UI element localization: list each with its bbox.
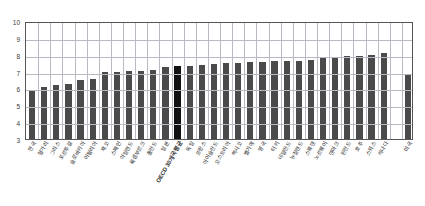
bar — [344, 56, 350, 139]
x-gridline — [62, 23, 63, 139]
x-gridline — [159, 23, 160, 139]
y-axis-tick-label: 3 — [4, 137, 20, 144]
x-gridline — [305, 23, 306, 139]
x-gridline — [269, 23, 270, 139]
bar — [53, 85, 59, 139]
bar — [102, 72, 108, 139]
x-axis-labels: 한국헝가리그리스포르투갈슬로바키아이탈리아체코스페인아일랜드룩셈부르크폴란드일본… — [25, 141, 413, 206]
x-axis-tick-label: 호주 — [355, 141, 365, 152]
x-gridline — [378, 23, 379, 139]
bar — [296, 61, 302, 139]
x-gridline — [232, 23, 233, 139]
bar — [138, 71, 144, 139]
bar — [114, 72, 120, 139]
x-axis-tick-label: 미국 — [404, 141, 414, 152]
y-axis-tick-label: 6 — [4, 86, 20, 93]
x-gridline — [184, 23, 185, 139]
bar — [187, 66, 193, 139]
bar — [368, 55, 374, 139]
x-axis-tick-label: 캐나다 — [377, 141, 389, 157]
x-axis-tick-label: 스위스 — [365, 141, 377, 157]
x-gridline — [196, 23, 197, 139]
x-axis-tick-label: 핀란드 — [341, 141, 353, 157]
bar — [29, 90, 35, 139]
bar — [90, 79, 96, 139]
y-axis-tick-label: 7 — [4, 69, 20, 76]
x-axis-tick-label: 체코 — [101, 141, 111, 152]
x-axis-tick-label: 헝가리 — [38, 141, 50, 157]
bar — [126, 71, 132, 139]
bar — [41, 87, 47, 139]
bar — [65, 84, 71, 139]
x-axis-tick-label: 한국 — [28, 141, 38, 152]
x-axis-tick-label: 멕시코 — [232, 141, 244, 157]
bar — [356, 56, 362, 139]
y-axis-tick-label: 9 — [4, 36, 20, 43]
x-gridline — [353, 23, 354, 139]
x-gridline — [244, 23, 245, 139]
bar — [150, 70, 156, 139]
x-gridline — [341, 23, 342, 139]
x-gridline — [256, 23, 257, 139]
x-axis-tick-label: 덴마크 — [329, 141, 341, 157]
y-axis-tick-label: 10 — [4, 19, 20, 26]
y-axis-tick-label: 5 — [4, 103, 20, 110]
x-gridline — [317, 23, 318, 139]
bar — [381, 53, 387, 139]
y-axis-tick-label: 8 — [4, 52, 20, 59]
bar — [332, 57, 338, 139]
x-gridline — [38, 23, 39, 139]
y-axis-tick-label: 4 — [4, 120, 20, 127]
x-axis-tick-label: 영국 — [258, 141, 268, 152]
x-gridline — [87, 23, 88, 139]
x-gridline — [135, 23, 136, 139]
x-gridline — [281, 23, 282, 139]
x-gridline — [147, 23, 148, 139]
x-axis-tick-label: 일본 — [161, 141, 171, 152]
x-axis-tick-label: 벨기에 — [244, 141, 256, 157]
x-gridline — [390, 23, 391, 139]
x-gridline — [99, 23, 100, 139]
x-axis-tick-label: 폴란드 — [147, 141, 159, 157]
x-gridline — [75, 23, 76, 139]
x-gridline — [111, 23, 112, 139]
bar — [162, 67, 168, 139]
x-gridline — [402, 23, 403, 139]
bar — [320, 58, 326, 139]
bar-chart: 한국헝가리그리스포르투갈슬로바키아이탈리아체코스페인아일랜드룩셈부르크폴란드일본… — [0, 0, 425, 206]
x-gridline — [293, 23, 294, 139]
x-gridline — [366, 23, 367, 139]
x-gridline — [172, 23, 173, 139]
x-gridline — [220, 23, 221, 139]
x-gridline — [329, 23, 330, 139]
bar — [174, 66, 180, 139]
x-gridline — [123, 23, 124, 139]
bar — [211, 64, 217, 139]
x-gridline — [208, 23, 209, 139]
x-axis-tick-label: 독일 — [186, 141, 196, 152]
bar — [77, 80, 83, 139]
bar — [308, 60, 314, 139]
x-axis-tick-label: OECD 30개국 평균 — [155, 141, 183, 184]
x-gridline — [50, 23, 51, 139]
plot-area — [25, 22, 413, 140]
bar — [199, 65, 205, 139]
x-axis-tick-label: 터키 — [271, 141, 281, 152]
